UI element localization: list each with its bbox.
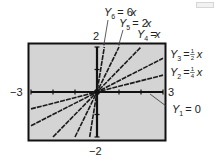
x-max-label: 3 xyxy=(168,86,174,98)
x-min-label: −3 xyxy=(10,86,23,98)
graph-figure: 2 −2 −3 3 Y6= 6xY5= 2xY4=xY3=12xY2=14xY1… xyxy=(0,0,218,163)
fraction-numerator: 1 xyxy=(191,66,195,72)
fraction-denominator: 2 xyxy=(191,55,195,61)
equation-label-y1: Y1= 0 xyxy=(172,103,201,117)
y-min-label: −2 xyxy=(89,145,102,157)
leader-y5 xyxy=(119,30,123,44)
origin-point xyxy=(94,89,100,95)
equation-label-y3: Y3= xyxy=(170,48,190,62)
equation-label-y2: Y2= xyxy=(170,66,190,80)
variable-x: x xyxy=(196,66,203,78)
fraction-denominator: 4 xyxy=(191,73,195,79)
y-max-label: 2 xyxy=(93,30,99,42)
leader-y6 xyxy=(104,20,108,44)
variable-x: x xyxy=(154,28,161,40)
variable-x: x xyxy=(196,48,203,60)
fraction-numerator: 1 xyxy=(191,48,195,54)
